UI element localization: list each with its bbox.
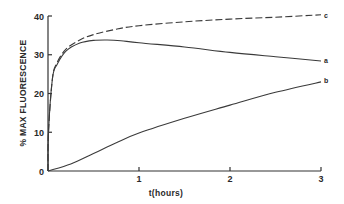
curve-c [48, 15, 321, 171]
y-tick-10: 10 [34, 128, 44, 138]
chart-canvas: 40 30 20 10 0 1 2 3 t(hours) % MAX FLUOR… [0, 0, 344, 204]
x-tick-3: 3 [318, 174, 323, 184]
y-axis-title: % MAX FLUORESCENCE [18, 40, 28, 147]
x-tick-2: 2 [227, 174, 232, 184]
x-axis-title: t(hours) [149, 188, 184, 198]
curve-b [48, 82, 321, 171]
fluorescence-chart: 40 30 20 10 0 1 2 3 t(hours) % MAX FLUOR… [0, 0, 344, 204]
x-tick-1: 1 [136, 174, 141, 184]
x-axis [48, 167, 321, 171]
y-tick-30: 30 [34, 50, 44, 60]
curve-a [48, 40, 321, 171]
curve-label-b: b [324, 77, 328, 84]
y-tick-0: 0 [39, 167, 44, 177]
y-tick-40: 40 [34, 12, 44, 22]
curve-label-a: a [324, 57, 328, 64]
y-tick-20: 20 [34, 89, 44, 99]
curve-label-c: c [324, 12, 328, 19]
